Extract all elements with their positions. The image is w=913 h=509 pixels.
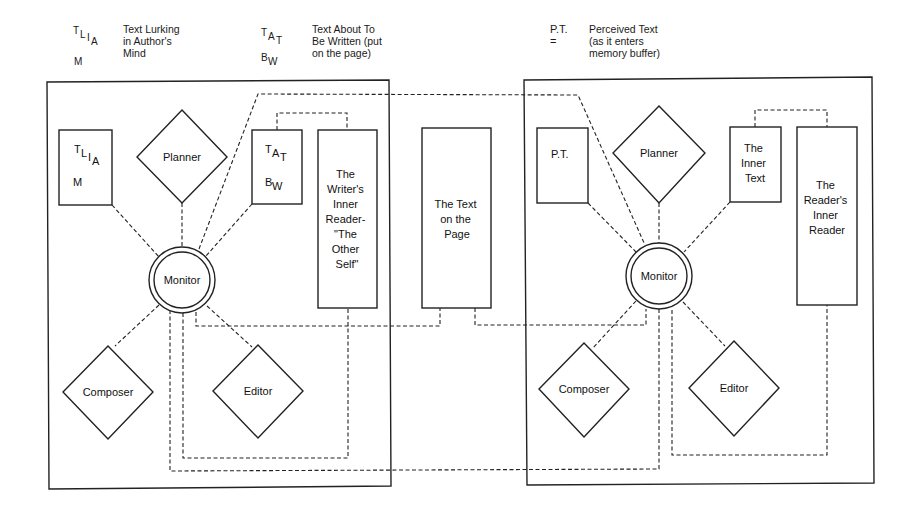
reader-editor-node: Editor xyxy=(689,341,779,436)
line-1: Inner xyxy=(741,157,766,169)
writer-editor-node: Editor xyxy=(213,345,303,438)
line-0: The xyxy=(816,179,835,191)
writer-composer-node: Composer xyxy=(63,346,153,439)
line-1: on the xyxy=(440,213,471,225)
line-2: Inner xyxy=(333,198,358,210)
pt-box: P.T. xyxy=(537,128,588,203)
line-0: The xyxy=(744,142,763,154)
line-4: "The xyxy=(334,228,357,240)
writer-editor-label: Editor xyxy=(244,385,273,397)
line-0: The xyxy=(336,168,355,180)
reader-monitor-node: Monitor xyxy=(626,243,692,309)
tatbw-box: T A T B W xyxy=(252,130,302,204)
line-6: Self" xyxy=(336,258,359,270)
reader-monitor-label: Monitor xyxy=(641,270,678,282)
reader-planner-node: Planner xyxy=(613,106,705,203)
connector-reader-monitor-editor xyxy=(683,302,725,346)
line-0: The Text xyxy=(434,198,476,210)
line-2: Text xyxy=(745,172,765,184)
writer-monitor-node: Monitor xyxy=(149,247,215,313)
writer-monitor-label: Monitor xyxy=(164,274,201,286)
inner-text-label: The Inner Text xyxy=(741,142,769,184)
tlia-i: I xyxy=(88,151,91,163)
connector-pt-monitor xyxy=(588,203,636,252)
text-on-page-box: The Text on the Page xyxy=(422,128,491,308)
writer-planner-label: Planner xyxy=(163,151,201,163)
tlia-m: M xyxy=(73,176,82,188)
line-1: Writer's xyxy=(327,183,364,195)
writer-planner-node: Planner xyxy=(137,110,227,203)
inner-text-box: The Inner Text xyxy=(730,127,781,202)
reader-inner-reader-box: The Reader's Inner Reader xyxy=(797,127,857,305)
pt-box-label: P.T. xyxy=(551,148,569,160)
line-2: Page xyxy=(444,228,470,240)
reader-composer-node: Composer xyxy=(539,343,629,437)
connector-monitor-text-page xyxy=(196,308,440,326)
connector-inner-text-reader-bracket xyxy=(755,110,827,127)
connector-inner-text-monitor xyxy=(684,202,730,252)
tlia-box: T L I A M xyxy=(59,130,112,205)
writer-inner-reader-box: The Writer's Inner Reader- "The Other Se… xyxy=(318,130,377,308)
writer-inner-reader-label: The Writer's Inner Reader- "The Other Se… xyxy=(326,168,369,270)
connector-monitor-composer xyxy=(115,305,159,346)
tlia-l: L xyxy=(81,147,87,159)
line-1: Reader's xyxy=(804,194,848,206)
writer-reader-diagram: T L I A M Planner T A T B W The Writer's… xyxy=(0,0,913,509)
line-3: Reader- xyxy=(326,213,366,225)
connector-tatbw-inner-reader xyxy=(277,113,347,130)
reader-planner-label: Planner xyxy=(640,147,678,159)
tlia-a: A xyxy=(92,155,100,167)
connector-text-page-reader-monitor xyxy=(475,308,646,325)
line-2: Inner xyxy=(813,209,838,221)
line-5: Other xyxy=(332,243,360,255)
reader-editor-label: Editor xyxy=(720,382,749,394)
tatbw-t: T xyxy=(265,143,272,155)
tatbw-w: W xyxy=(272,180,283,192)
reader-composer-label: Composer xyxy=(559,383,610,395)
tatbw-t2: T xyxy=(280,151,287,163)
writer-composer-label: Composer xyxy=(83,386,134,398)
line-3: Reader xyxy=(809,224,845,236)
tlia-t: T xyxy=(74,143,81,155)
tatbw-a: A xyxy=(272,147,280,159)
connector-tlia-monitor xyxy=(112,205,159,257)
